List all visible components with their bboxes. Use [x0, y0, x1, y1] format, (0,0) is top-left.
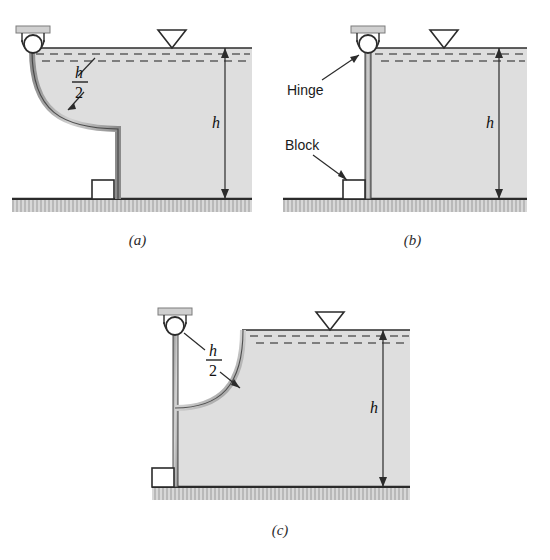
block-c — [152, 468, 174, 487]
water-body-b — [370, 48, 527, 199]
half-depth-numerator-c: h — [209, 342, 217, 359]
half-depth-numerator-a: h — [75, 64, 83, 81]
hinge-leader-b — [322, 55, 359, 80]
panel-a-drawing: h 2 h — [0, 0, 275, 240]
depth-label-c: h — [370, 399, 378, 416]
panel-c: h 2 h (c) — [130, 282, 430, 560]
ground-hatch-a — [12, 200, 252, 212]
depth-label-a: h — [212, 114, 220, 131]
water-surface-symbol-b — [430, 30, 458, 48]
hinge-bracket-a — [16, 26, 50, 33]
water-surface-symbol-c — [316, 312, 344, 330]
block-leader-b — [313, 155, 347, 180]
depth-label-b: h — [486, 114, 494, 131]
block-a — [92, 180, 114, 199]
panel-c-drawing: h 2 h — [130, 282, 430, 532]
panel-b-drawing: Hinge Block h — [275, 0, 550, 240]
panel-b: Hinge Block h (b) — [275, 0, 550, 265]
caption-a: (a) — [0, 232, 275, 249]
hinge-bracket-c — [158, 308, 192, 315]
block-label-b: Block — [285, 137, 320, 153]
panel-a: h 2 h (a) — [0, 0, 275, 265]
caption-c: (c) — [130, 522, 430, 539]
hinge-b — [359, 35, 377, 53]
ground-hatch-b — [283, 200, 527, 212]
caption-b: (b) — [275, 232, 550, 249]
ground-hatch-c — [152, 488, 410, 500]
block-b — [343, 180, 365, 199]
half-depth-denominator-c: 2 — [209, 362, 217, 379]
straight-gate-b — [365, 50, 371, 199]
hinge-bracket-b — [351, 26, 385, 33]
hinge-c — [166, 317, 184, 335]
half-depth-label-c: h 2 — [206, 342, 222, 379]
figure-container: h 2 h (a) — [0, 0, 550, 560]
water-surface-symbol-a — [158, 30, 186, 48]
hinge-label-b: Hinge — [287, 82, 324, 98]
hinge-a — [24, 35, 42, 53]
water-body-a-clip — [118, 48, 252, 199]
half-depth-denominator-a: 2 — [75, 84, 83, 101]
